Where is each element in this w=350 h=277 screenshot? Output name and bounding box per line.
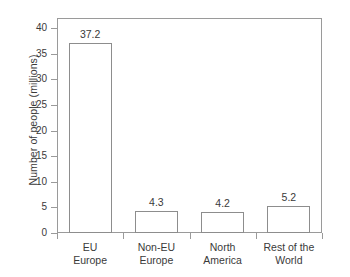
y-axis-tick-label: 25	[7, 100, 47, 110]
y-axis-tick-label: 10	[7, 177, 47, 187]
y-axis-tick-label: 0	[7, 228, 47, 238]
y-axis-tick	[51, 28, 57, 29]
y-axis-tick-label: 30	[7, 74, 47, 84]
x-axis-tick	[123, 233, 124, 239]
y-axis-tick	[51, 182, 57, 183]
bar-chart: Number of people (millions) 051015202530…	[0, 0, 350, 277]
x-axis-tick	[256, 233, 257, 239]
y-axis-tick-label: 15	[7, 151, 47, 161]
bar	[135, 211, 178, 233]
x-axis-category-label-line1: Non-EU	[138, 241, 175, 253]
y-axis-tick	[51, 207, 57, 208]
bar-value-label: 5.2	[259, 192, 319, 203]
y-axis-tick-label: 5	[7, 202, 47, 212]
x-axis-category-label-line1: North	[210, 241, 236, 253]
y-axis-tick	[51, 131, 57, 132]
y-axis-tick-label: 20	[7, 126, 47, 136]
x-axis-category-label-line2: World	[249, 254, 329, 267]
x-axis-tick	[190, 233, 191, 239]
bar-value-label: 4.3	[126, 197, 186, 208]
y-axis-tick-label: 40	[7, 23, 47, 33]
y-axis-tick	[51, 156, 57, 157]
bar	[69, 43, 112, 233]
y-axis-tick	[51, 105, 57, 106]
y-axis-tick	[51, 54, 57, 55]
bar	[201, 212, 244, 234]
bar-value-label: 37.2	[60, 29, 120, 40]
y-axis-tick	[51, 79, 57, 80]
x-axis-category-label: Rest of theWorld	[249, 241, 329, 267]
x-axis-category-label-line1: Rest of the	[263, 241, 314, 253]
y-axis-tick-label: 35	[7, 49, 47, 59]
x-axis-tick	[322, 233, 323, 239]
x-axis-category-label-line1: EU	[83, 241, 98, 253]
x-axis-tick	[57, 233, 58, 239]
bar	[267, 206, 310, 233]
bar-value-label: 4.2	[193, 198, 253, 209]
